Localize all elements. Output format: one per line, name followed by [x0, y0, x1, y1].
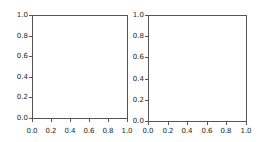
y-tick-label: 1.0	[118, 11, 144, 19]
y-tick-label: 1.0	[2, 11, 28, 19]
y-tick-mark	[29, 36, 32, 37]
y-tick-mark	[145, 100, 148, 101]
x-tick-mark	[226, 122, 227, 125]
y-tick-label: 0.0	[118, 117, 144, 125]
y-tick-label: 0.8	[2, 32, 28, 40]
y-tick-label: 0.8	[118, 32, 144, 40]
y-tick-label: 0.0	[2, 114, 28, 122]
y-tick-label: 0.6	[118, 53, 144, 61]
y-tick-mark	[29, 77, 32, 78]
y-tick-mark	[145, 121, 148, 122]
y-tick-mark	[29, 15, 32, 16]
x-tick-mark	[246, 122, 247, 125]
x-tick-mark	[70, 119, 71, 122]
figure: 0.00.20.40.60.81.00.00.20.40.60.81.00.00…	[0, 0, 266, 142]
y-tick-mark	[145, 15, 148, 16]
x-tick-mark	[89, 119, 90, 122]
x-tick-mark	[148, 122, 149, 125]
x-tick-mark	[207, 122, 208, 125]
x-tick-mark	[32, 119, 33, 122]
x-tick-label: 1.0	[234, 127, 258, 135]
y-tick-label: 0.6	[2, 52, 28, 60]
y-tick-label: 0.2	[2, 93, 28, 101]
y-tick-mark	[29, 56, 32, 57]
x-tick-mark	[108, 119, 109, 122]
y-tick-label: 0.4	[2, 73, 28, 81]
y-tick-label: 0.2	[118, 96, 144, 104]
y-tick-mark	[145, 57, 148, 58]
subplot-left-axes	[32, 15, 128, 119]
subplot-right-axes	[148, 15, 247, 122]
x-tick-mark	[51, 119, 52, 122]
y-tick-mark	[29, 97, 32, 98]
y-tick-mark	[29, 118, 32, 119]
x-tick-mark	[168, 122, 169, 125]
x-tick-mark	[187, 122, 188, 125]
y-tick-mark	[145, 79, 148, 80]
y-tick-mark	[145, 36, 148, 37]
y-tick-label: 0.4	[118, 75, 144, 83]
